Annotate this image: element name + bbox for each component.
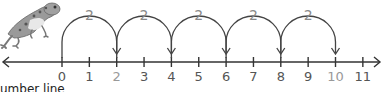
tick-label: 5	[195, 69, 203, 84]
jump-arcs: 22222	[62, 7, 340, 58]
tick-label: 7	[249, 69, 257, 84]
tick-label: 11	[355, 69, 372, 84]
jump-label: 2	[194, 7, 203, 23]
jump-label: 2	[85, 7, 94, 23]
tick-label: 10	[327, 69, 344, 84]
caption-text: umber line	[0, 83, 65, 92]
number-line: 01234567891011	[3, 57, 380, 84]
tick-label: 2	[113, 69, 121, 84]
frog-icon	[1, 3, 60, 48]
jump-arc: 2	[281, 7, 340, 58]
tick-label: 3	[140, 69, 148, 84]
tick-label: 9	[304, 69, 312, 84]
tick-label: 4	[167, 69, 175, 84]
number-line-diagram: 01234567891011 22222 umber line	[0, 0, 383, 92]
tick-label: 6	[222, 69, 230, 84]
jump-arc: 2	[62, 7, 121, 58]
jump-label: 2	[140, 7, 149, 23]
jump-label: 2	[304, 7, 313, 23]
jump-arc: 2	[226, 7, 285, 58]
jump-label: 2	[249, 7, 258, 23]
tick-label: 1	[85, 69, 93, 84]
jump-arc: 2	[171, 7, 230, 58]
tick-label: 8	[277, 69, 285, 84]
jump-arc: 2	[117, 7, 176, 58]
